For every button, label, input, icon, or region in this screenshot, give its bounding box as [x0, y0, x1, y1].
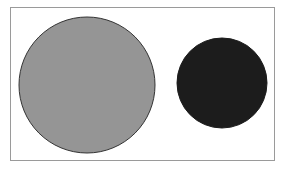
diagram-canvas — [0, 0, 290, 169]
small-dark-circle — [177, 38, 267, 128]
large-gray-circle — [19, 17, 155, 153]
